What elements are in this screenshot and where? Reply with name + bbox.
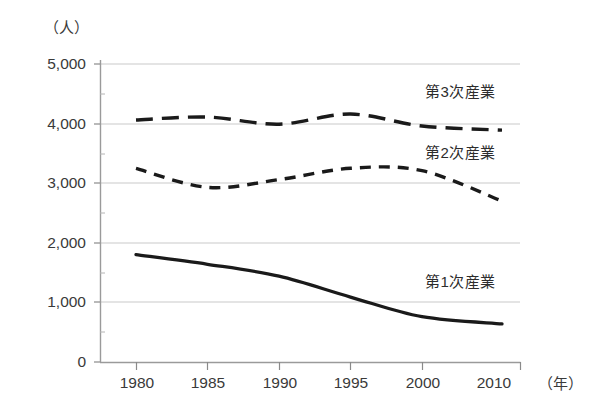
- x-tick-label-1980: 1980: [107, 374, 167, 392]
- series-label-tertiary: 第3次産業: [425, 80, 496, 101]
- x-tick-label-1990: 1990: [250, 374, 310, 392]
- y-tick-label-1000: 1,000: [14, 293, 86, 311]
- x-tick-label-1985: 1985: [178, 374, 238, 392]
- y-axis: [94, 60, 105, 362]
- y-axis-unit-label: （人）: [44, 16, 89, 37]
- series-label-secondary: 第2次産業: [425, 141, 496, 162]
- y-tick-label-2000: 2,000: [14, 234, 86, 252]
- series-line-secondary: [136, 167, 502, 201]
- chart-figure: （人） （年） 5,000 4,000 3,000 2,000 1,000 0 …: [0, 0, 593, 417]
- x-axis: [100, 362, 521, 370]
- series-line-tertiary: [136, 114, 502, 130]
- x-tick-label-2010: 2010: [464, 374, 524, 392]
- x-tick-label-1995: 1995: [321, 374, 381, 392]
- y-tick-label-4000: 4,000: [14, 115, 86, 133]
- y-tick-label-0: 0: [14, 353, 86, 371]
- y-tick-label-5000: 5,000: [14, 55, 86, 73]
- chart-canvas: [0, 0, 593, 417]
- x-tick-label-2000: 2000: [393, 374, 453, 392]
- y-tick-label-3000: 3,000: [14, 174, 86, 192]
- x-axis-unit-label: （年）: [538, 372, 583, 393]
- series-label-primary: 第1次産業: [425, 270, 496, 291]
